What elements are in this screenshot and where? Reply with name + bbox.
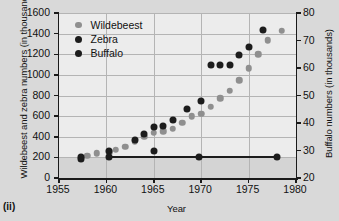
figure-caption: (ii) (3, 201, 15, 212)
data-point (226, 62, 233, 69)
gridline-horizontal (59, 75, 296, 76)
y-axis-left-tick-label: 1200 (10, 47, 50, 59)
data-point (94, 150, 101, 157)
y-axis-left-tick (54, 74, 59, 76)
chart-legend: WildebeestZebraBuffalo (75, 18, 167, 60)
y-axis-right-tick-label: 50 (303, 89, 333, 101)
data-point (106, 154, 113, 161)
gridline-horizontal (59, 13, 296, 14)
chart-figure: Wildebeest and zebra numbers (in thousan… (0, 0, 339, 221)
data-point (179, 120, 186, 127)
legend-marker-icon (75, 22, 82, 29)
data-point (198, 110, 205, 117)
data-point (207, 104, 214, 111)
series-buffalo-line (109, 156, 277, 158)
data-point (141, 130, 148, 137)
data-point (188, 113, 195, 120)
x-axis-tick-label: 1975 (228, 183, 268, 195)
data-point (170, 125, 177, 132)
legend-item-buffalo: Buffalo (75, 46, 167, 60)
y-axis-left-tick-label: 600 (10, 109, 50, 121)
data-point (160, 123, 167, 130)
y-axis-left-tick-label: 1600 (10, 6, 50, 18)
x-axis-tick-label: 1955 (38, 183, 78, 195)
gridline-horizontal (59, 137, 296, 138)
y-axis-left-tick (54, 157, 59, 159)
data-point (259, 26, 266, 33)
y-axis-left-tick (54, 33, 59, 35)
data-point (84, 153, 91, 160)
x-axis-tick-label: 1970 (180, 183, 220, 195)
data-point (150, 123, 157, 130)
y-axis-left-tick (54, 95, 59, 97)
y-axis-right-tick-label: 40 (303, 116, 333, 128)
x-axis-tick-label: 1965 (133, 183, 173, 195)
data-point (255, 51, 262, 58)
y-axis-left-tick (54, 115, 59, 117)
data-point (122, 143, 129, 150)
legend-item-wildebeest: Wildebeest (75, 18, 167, 32)
data-point (150, 147, 157, 154)
y-axis-left-tick-label: 800 (10, 89, 50, 101)
y-axis-right-tick-label: 80 (303, 6, 333, 18)
data-point (183, 105, 190, 112)
y-axis-right-tick (296, 150, 301, 152)
data-point (264, 37, 271, 44)
data-point (245, 65, 252, 72)
gridline-horizontal (59, 96, 296, 97)
y-axis-left-tick (54, 12, 59, 14)
gridline-vertical (201, 13, 202, 178)
y-axis-left-tick-label: 400 (10, 130, 50, 142)
x-axis-tick-label: 1980 (275, 183, 315, 195)
y-axis-right-tick-label: 30 (303, 144, 333, 156)
plot-area: WildebeestZebraBuffalo (58, 13, 297, 178)
y-axis-right-tick (296, 67, 301, 69)
data-point (236, 77, 243, 84)
y-axis-right-tick-label: 60 (303, 61, 333, 73)
x-axis-tick-label: 1960 (85, 183, 125, 195)
data-point (131, 136, 138, 143)
data-point (217, 62, 224, 69)
gridline-vertical (249, 13, 250, 178)
y-axis-right-tick (296, 12, 301, 14)
x-axis-title: Year (58, 203, 295, 214)
plot-lower-shading (59, 157, 296, 178)
y-axis-left-tick (54, 136, 59, 138)
y-axis-right-tick (296, 95, 301, 97)
y-axis-left-tick-label: 1400 (10, 27, 50, 39)
data-point (77, 154, 84, 161)
legend-item-zebra: Zebra (75, 32, 167, 46)
gridline-horizontal (59, 116, 296, 117)
data-point (207, 61, 214, 68)
y-axis-left-tick-label: 1000 (10, 68, 50, 80)
y-axis-left-tick (54, 54, 59, 56)
data-point (217, 95, 224, 102)
data-point (236, 51, 243, 58)
y-axis-left-tick-label: 0 (10, 171, 50, 183)
legend-marker-icon (75, 50, 82, 57)
y-axis-right-tick (296, 40, 301, 42)
legend-label: Zebra (91, 33, 118, 45)
data-point (279, 27, 286, 34)
data-point (274, 154, 281, 161)
data-point (113, 146, 120, 153)
data-point (245, 43, 252, 50)
legend-label: Wildebeest (91, 19, 143, 31)
y-axis-right-tick-label: 70 (303, 34, 333, 46)
legend-marker-icon (75, 36, 82, 43)
y-axis-right-tick-label: 20 (303, 171, 333, 183)
y-axis-right-tick (296, 122, 301, 124)
data-point (196, 154, 203, 161)
data-point (169, 117, 176, 124)
legend-label: Buffalo (91, 47, 124, 59)
data-point (226, 88, 233, 95)
y-axis-left-tick-label: 200 (10, 150, 50, 162)
x-axis-line (58, 178, 298, 180)
data-point (198, 98, 205, 105)
